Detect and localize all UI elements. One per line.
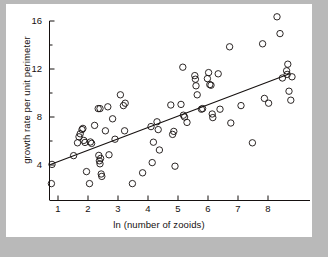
- data-point: [286, 88, 292, 94]
- x-tick-label: 1: [48, 203, 68, 214]
- data-point: [204, 75, 210, 81]
- data-point: [91, 122, 97, 128]
- data-point: [129, 180, 135, 186]
- data-point: [288, 97, 294, 103]
- regression-line: [51, 74, 290, 165]
- x-tick-label: 8: [258, 203, 278, 214]
- data-point: [228, 120, 234, 126]
- data-point: [249, 140, 255, 146]
- data-point: [150, 139, 156, 145]
- data-point: [86, 180, 92, 186]
- x-axis-ticks: [58, 196, 268, 201]
- data-point: [274, 14, 280, 20]
- data-point: [106, 152, 112, 158]
- data-point: [155, 126, 161, 132]
- data-point: [285, 61, 291, 67]
- data-point: [172, 163, 178, 169]
- data-point: [277, 30, 283, 36]
- data-point: [193, 83, 199, 89]
- scatter-chart: 12345678 481216 ln (number of zooids) gr…: [0, 0, 328, 257]
- fit-line: [51, 74, 290, 165]
- x-tick-label: 3: [108, 203, 128, 214]
- data-point: [184, 119, 190, 125]
- data-point: [215, 71, 221, 77]
- data-point: [149, 159, 155, 165]
- data-point: [180, 64, 186, 70]
- data-point: [109, 116, 115, 122]
- x-tick-label: 5: [168, 203, 188, 214]
- x-axis-title: ln (number of zooids): [0, 219, 318, 230]
- data-point: [105, 104, 111, 110]
- data-point: [238, 102, 244, 108]
- figure-root: 12345678 481216 ln (number of zooids) gr…: [0, 0, 328, 257]
- x-tick-label: 7: [228, 203, 248, 214]
- data-point: [121, 128, 127, 134]
- y-axis-title: growth rate per unit perimeter: [21, 20, 32, 180]
- data-points: [48, 14, 295, 187]
- data-point: [205, 69, 211, 75]
- data-point: [259, 41, 265, 47]
- y-axis-title-wrap: growth rate per unit perimeter: [21, 20, 35, 180]
- data-point: [74, 140, 80, 146]
- x-tick-label: 4: [138, 203, 158, 214]
- data-point: [102, 128, 108, 134]
- data-point: [83, 168, 89, 174]
- data-point: [117, 92, 123, 98]
- y-axis-ticks: [50, 21, 55, 165]
- data-point: [139, 170, 145, 176]
- data-point: [168, 102, 174, 108]
- x-tick-label: 2: [78, 203, 98, 214]
- data-point: [178, 101, 184, 107]
- data-point: [217, 106, 223, 112]
- data-point: [226, 44, 232, 50]
- x-tick-label: 6: [198, 203, 218, 214]
- data-point: [156, 147, 162, 153]
- data-point: [88, 140, 94, 146]
- data-point: [265, 100, 271, 106]
- data-point: [194, 92, 200, 98]
